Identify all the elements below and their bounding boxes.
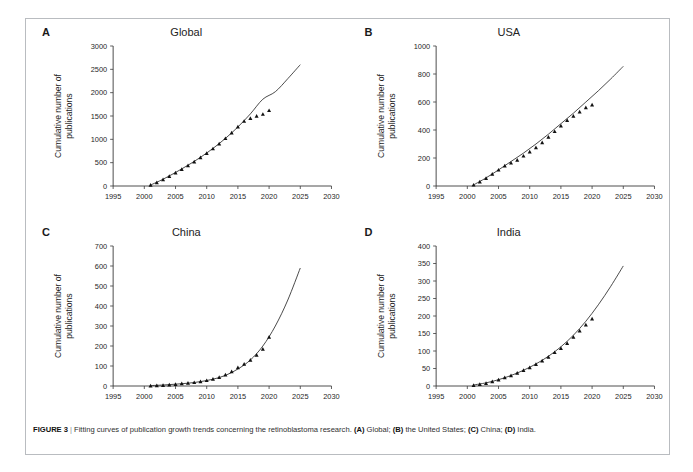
x-tick-label: 2000 (459, 192, 475, 201)
caption-panel-refs: (A) Global; (B) the United States; (C) C… (352, 425, 536, 434)
caption-ref-text: India. (515, 425, 536, 434)
x-tick-label: 2000 (136, 192, 152, 201)
figure-container: A Global 0500100015002000250030001995200… (0, 0, 693, 472)
y-axis-title-line: publications (387, 93, 397, 138)
caption-main-text: Fitting curves of publication growth tre… (74, 425, 352, 434)
panel-grid: A Global 0500100015002000250030001995200… (25, 18, 670, 418)
fitted-curve (151, 65, 301, 185)
x-tick-label: 2015 (230, 392, 246, 401)
x-tick-label: 2005 (167, 392, 183, 401)
x-tick-label: 2010 (521, 192, 537, 201)
panel-a-plot: 0500100015002000250030001995200020052010… (25, 18, 348, 218)
y-axis-title-line: Cumulative number of (376, 73, 386, 158)
y-tick-label: 350 (417, 259, 429, 268)
y-axis-title-line: publications (64, 93, 74, 138)
caption-ref: (C) (468, 425, 479, 434)
data-point-marker (590, 103, 594, 107)
y-axis-title-line: Cumulative number of (53, 273, 63, 358)
x-tick-label: 1995 (427, 392, 443, 401)
y-tick-label: 1500 (91, 112, 107, 121)
x-tick-label: 2030 (323, 192, 339, 201)
x-tick-label: 2020 (583, 392, 599, 401)
data-point-marker (533, 146, 537, 150)
data-point-marker (527, 365, 531, 369)
data-point-marker (149, 183, 153, 187)
data-point-marker (155, 181, 159, 185)
panel-c-plot: 0100200300400500600700199520002005201020… (25, 218, 348, 418)
x-tick-label: 1995 (105, 192, 121, 201)
data-point-marker (161, 177, 165, 181)
x-tick-label: 1995 (427, 192, 443, 201)
y-tick-label: 100 (417, 347, 429, 356)
x-tick-label: 2015 (552, 392, 568, 401)
x-tick-label: 2010 (521, 392, 537, 401)
data-point-marker (527, 150, 531, 154)
data-point-marker (248, 116, 252, 120)
panel-d-plot: 0501001502002503003504001995200020052010… (348, 218, 671, 418)
y-tick-label: 500 (95, 282, 107, 291)
figure-label: FIGURE 3 (33, 425, 68, 434)
y-tick-label: 1000 (91, 135, 107, 144)
y-tick-label: 200 (95, 342, 107, 351)
caption-area: FIGURE 3|Fitting curves of publication g… (25, 420, 670, 455)
y-tick-label: 400 (95, 302, 107, 311)
y-tick-label: 300 (417, 277, 429, 286)
y-tick-label: 400 (417, 126, 429, 135)
y-axis-title-line: publications (64, 293, 74, 338)
data-point-marker (255, 114, 259, 118)
y-tick-label: 800 (417, 70, 429, 79)
y-tick-label: 1000 (413, 42, 429, 51)
data-point-marker (515, 371, 519, 375)
y-tick-label: 250 (417, 294, 429, 303)
data-point-marker (471, 183, 475, 187)
caption-ref: (B) (393, 425, 404, 434)
x-tick-label: 2010 (198, 192, 214, 201)
y-tick-label: 3000 (91, 42, 107, 51)
x-tick-label: 1995 (105, 392, 121, 401)
data-point-marker (502, 164, 506, 168)
y-tick-label: 300 (95, 322, 107, 331)
x-tick-label: 2030 (646, 392, 662, 401)
y-tick-label: 0 (103, 182, 107, 191)
data-point-marker (577, 110, 581, 114)
x-tick-label: 2030 (323, 392, 339, 401)
x-tick-label: 2025 (615, 192, 631, 201)
y-axis-title-line: Cumulative number of (53, 73, 63, 158)
x-tick-label: 2030 (646, 192, 662, 201)
y-tick-label: 150 (417, 329, 429, 338)
x-tick-label: 2015 (552, 192, 568, 201)
data-point-marker (261, 112, 265, 116)
figure-caption: FIGURE 3|Fitting curves of publication g… (33, 425, 665, 435)
x-tick-label: 2010 (198, 392, 214, 401)
y-axis-title-line: Cumulative number of (376, 273, 386, 358)
data-point-marker (496, 168, 500, 172)
y-tick-label: 0 (425, 382, 429, 391)
y-tick-label: 2500 (91, 65, 107, 74)
y-tick-label: 2000 (91, 88, 107, 97)
y-tick-label: 400 (417, 242, 429, 251)
x-tick-label: 2000 (459, 392, 475, 401)
data-point-marker (540, 141, 544, 145)
x-tick-label: 2005 (167, 192, 183, 201)
data-point-marker (236, 366, 240, 370)
y-tick-label: 100 (95, 362, 107, 371)
x-tick-label: 2020 (583, 192, 599, 201)
caption-divider (25, 454, 670, 455)
y-tick-label: 200 (417, 312, 429, 321)
x-tick-label: 2015 (230, 192, 246, 201)
caption-ref: (A) (354, 425, 365, 434)
y-tick-label: 200 (417, 154, 429, 163)
data-point-marker (590, 317, 594, 321)
data-point-marker (267, 335, 271, 339)
y-tick-label: 0 (103, 382, 107, 391)
fitted-curve (473, 266, 623, 385)
panel-a: A Global 0500100015002000250030001995200… (25, 18, 348, 218)
fitted-curve (473, 66, 623, 185)
x-tick-label: 2025 (615, 392, 631, 401)
x-tick-label: 2025 (292, 192, 308, 201)
panel-b-plot: 0200400600800100019952000200520102015202… (348, 18, 671, 218)
caption-ref-text: Global; (364, 425, 390, 434)
x-tick-label: 2005 (490, 192, 506, 201)
fitted-curve (151, 268, 301, 386)
x-tick-label: 2020 (261, 192, 277, 201)
